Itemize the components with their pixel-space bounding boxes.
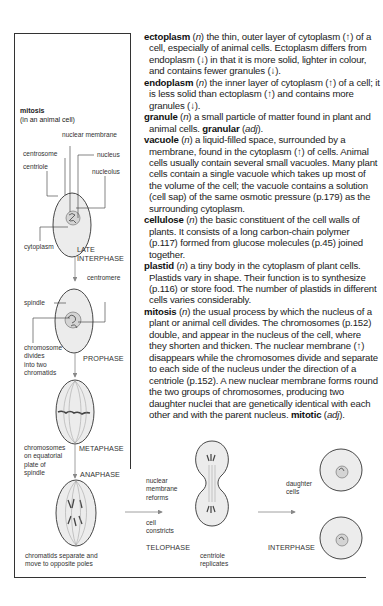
label-nucleus: nucleus	[97, 151, 120, 159]
cell-anaphase	[56, 480, 96, 546]
text-line: cells	[286, 488, 299, 495]
text-line: membrane	[146, 485, 178, 492]
text-line: cell	[146, 519, 156, 526]
label-nuclear-membrane-reforms: nuclear membrane reforms	[146, 477, 178, 502]
text-line: chromosome	[24, 344, 62, 351]
diagram-title-main: mitosis	[20, 107, 45, 114]
text-line: chromosomes	[24, 444, 65, 451]
text-line: constricts	[146, 527, 174, 534]
phase-late-interphase: LATE INTERPHASE	[77, 246, 124, 263]
mitosis-diagram	[0, 0, 383, 606]
text-line: chromatids separate and	[25, 552, 98, 559]
text-line: spindle	[24, 469, 45, 476]
label-cytoplasm: cytoplasm	[24, 243, 54, 251]
text-line: move to opposite poles	[25, 560, 93, 567]
phase-metaphase: METAPHASE	[79, 445, 124, 454]
phase-telophase: TELOPHASE	[146, 544, 190, 553]
label-nuclear-membrane: nuclear membrane	[62, 131, 117, 139]
label-chromosome-divides: chromosome divides into two chromatids	[24, 344, 62, 378]
phase-prophase: PROPHASE	[83, 355, 124, 364]
diagram-subtitle: (in an animal cell)	[20, 116, 75, 123]
text-line: daughter	[286, 480, 312, 487]
phase-late-interphase-line2: INTERPHASE	[77, 254, 124, 263]
text-line: into two	[24, 361, 47, 368]
text-line: divides	[24, 352, 45, 359]
label-centriole-replicates: centriole replicates	[200, 552, 228, 569]
label-spindle: spindle	[24, 299, 45, 307]
text-line: chromatids	[24, 369, 56, 376]
label-nucleolus: nucleolus	[92, 168, 120, 176]
text-line: plate of	[24, 461, 46, 468]
label-chromatids-separate: chromatids separate and move to opposite…	[25, 552, 98, 569]
label-chromosomes-equatorial: chromosomes on equatorial plate of spind…	[24, 444, 65, 478]
phase-anaphase: ANAPHASE	[80, 471, 120, 480]
text-line: on equatorial	[24, 452, 62, 459]
text-line: replicates	[200, 560, 228, 567]
label-centrosome: centrosome	[23, 150, 57, 158]
phase-interphase: INTERPHASE	[268, 544, 315, 553]
label-daughter-cells: daughter cells	[286, 480, 312, 497]
text-line: nuclear	[146, 477, 168, 484]
label-cell-constricts: cell constricts	[146, 519, 174, 536]
text-line: reforms	[146, 494, 168, 501]
label-centriole: centriole	[23, 163, 48, 171]
label-centromere: centromere	[87, 274, 120, 282]
text-line: centriole	[200, 552, 225, 559]
diagram-title: mitosis (in an animal cell)	[20, 107, 75, 124]
